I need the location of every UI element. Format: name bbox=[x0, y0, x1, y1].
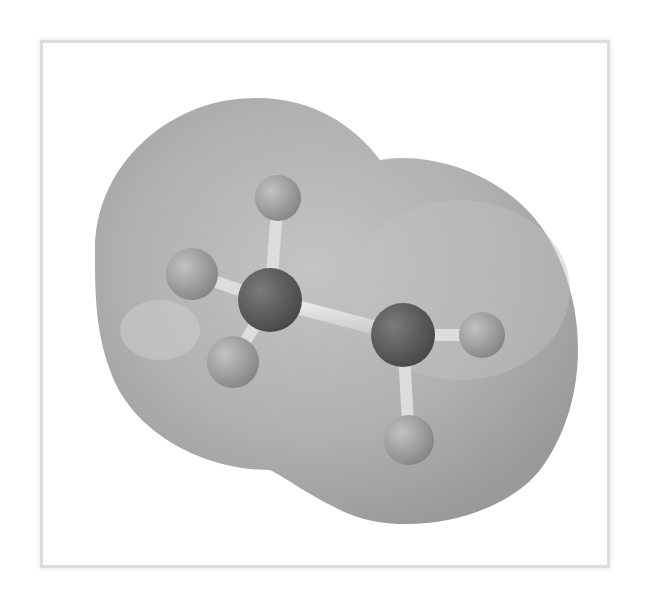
carbon-atom-1 bbox=[238, 268, 302, 332]
hydrogen-atom-3 bbox=[207, 336, 259, 388]
hydrogen-atom-5 bbox=[384, 415, 434, 465]
ethane-molecule-figure bbox=[0, 0, 646, 598]
hydrogen-atom-2 bbox=[166, 248, 218, 300]
hydrogen-atom-1 bbox=[255, 175, 301, 221]
hydrogen-atom-4 bbox=[459, 312, 505, 358]
carbon-atom-2 bbox=[371, 303, 435, 367]
